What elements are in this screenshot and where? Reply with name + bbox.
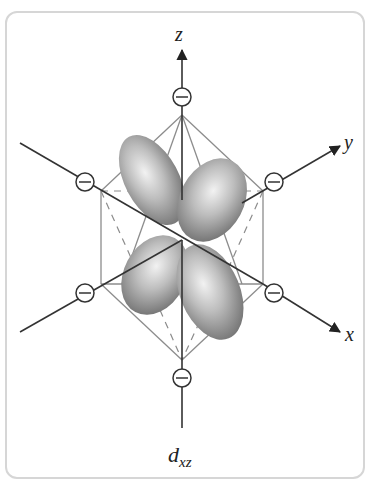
y-axis-positive xyxy=(242,146,340,203)
ligand-upper-right xyxy=(265,173,283,191)
ligand-lower-right xyxy=(265,284,283,302)
z-axis-label: z xyxy=(175,24,183,44)
x-axis-label: x xyxy=(345,324,354,344)
octahedral-dxz-diagram xyxy=(0,0,366,488)
y-axis-label: y xyxy=(344,132,353,152)
ligand-lower-left xyxy=(76,284,94,302)
caption-subscript: xz xyxy=(179,454,192,470)
ligand-upper-left xyxy=(76,173,94,191)
orbital-caption: dxz xyxy=(168,444,192,470)
ligands xyxy=(76,88,283,387)
ligand-top xyxy=(173,88,191,106)
caption-main: d xyxy=(168,442,179,467)
ligand-bottom xyxy=(173,369,191,387)
